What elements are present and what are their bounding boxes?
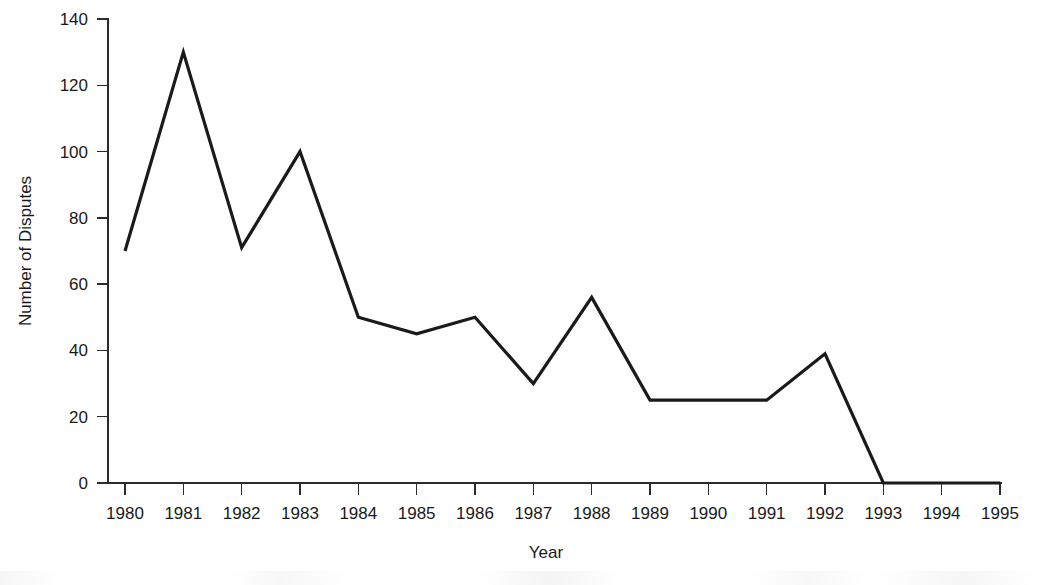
y-tick-label: 140 [60,10,88,29]
x-tick-label: 1995 [981,504,1019,523]
data-series-line [125,52,1000,483]
y-tick-label: 100 [60,143,88,162]
x-tick-label: 1982 [223,504,261,523]
x-tick-label: 1991 [748,504,786,523]
x-tick-label: 1985 [398,504,436,523]
x-tick-label: 1988 [573,504,611,523]
x-tick-label: 1986 [456,504,494,523]
y-axis-title: Number of Disputes [16,176,35,326]
x-tick-label: 1987 [514,504,552,523]
x-tick-label: 1980 [106,504,144,523]
x-tick-label: 1989 [631,504,669,523]
x-tick-label: 1984 [339,504,377,523]
chart-figure: 020406080100120140 198019811982198319841… [0,0,1037,585]
y-tick-label: 120 [60,76,88,95]
y-tick-label: 60 [69,275,88,294]
x-tick-label: 1994 [923,504,961,523]
x-tick-label: 1992 [806,504,844,523]
line-chart: 020406080100120140 198019811982198319841… [0,0,1037,585]
y-tick-label: 0 [79,474,88,493]
x-axis-title: Year [529,543,564,562]
x-tick-label: 1981 [164,504,202,523]
x-axis-ticks: 1980198119821983198419851986198719881989… [106,483,1019,523]
y-tick-label: 80 [69,209,88,228]
x-tick-label: 1983 [281,504,319,523]
x-tick-label: 1993 [864,504,902,523]
y-tick-label: 20 [69,408,88,427]
x-tick-label: 1990 [689,504,727,523]
y-axis-ticks: 020406080100120140 [60,10,108,493]
y-tick-label: 40 [69,341,88,360]
